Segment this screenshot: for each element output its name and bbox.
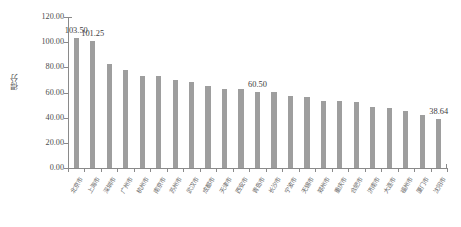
x-category-label: 大连市 <box>383 176 398 195</box>
x-category-label: 西安市 <box>235 176 250 195</box>
x-category-label: 深圳市 <box>103 176 118 195</box>
x-category-label: 广州市 <box>120 176 135 195</box>
x-category-label: 长沙市 <box>268 176 283 195</box>
x-category-label: 合肥市 <box>350 176 365 195</box>
x-category-label: 福州市 <box>400 176 415 195</box>
x-category-label: 济南市 <box>367 176 382 195</box>
x-category-label: 北京市 <box>70 176 85 195</box>
x-category-label: 杭州市 <box>136 176 151 195</box>
x-category-label: 厦门市 <box>416 176 431 195</box>
x-category-label: 上海市 <box>87 176 102 195</box>
x-axis-category-labels: 北京市上海市深圳市广州市杭州市南京市苏州市武汉市成都市天津市西安市青岛市长沙市宁… <box>0 0 461 227</box>
x-category-label: 青岛市 <box>252 176 267 195</box>
x-category-label: 南京市 <box>153 176 168 195</box>
x-category-label: 苏州市 <box>169 176 184 195</box>
x-category-label: 宁波市 <box>284 176 299 195</box>
x-category-label: 无锡市 <box>301 176 316 195</box>
bar-chart: 得分 120.00100.0080.0060.0040.0020.000.00 … <box>0 0 461 227</box>
x-category-label: 郑州市 <box>317 176 332 195</box>
x-category-label: 成都市 <box>202 176 217 195</box>
x-category-label: 天津市 <box>219 176 234 195</box>
x-category-label: 沈阳市 <box>433 176 448 195</box>
x-category-label: 重庆市 <box>334 176 349 195</box>
x-category-label: 武汉市 <box>186 176 201 195</box>
